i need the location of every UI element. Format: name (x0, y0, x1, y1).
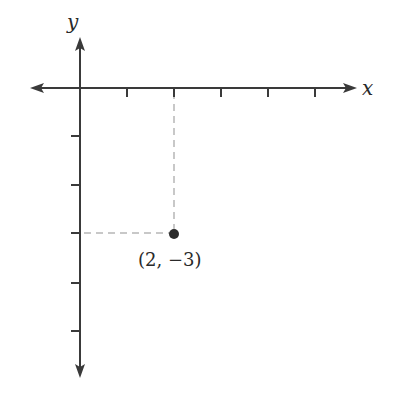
y-ticks (71, 136, 80, 331)
data-point (169, 229, 179, 239)
y-axis-label: y (66, 10, 79, 34)
point-label: (2, −3) (138, 249, 201, 270)
coordinate-plane: y x (2, −3) (0, 0, 401, 409)
x-ticks (127, 88, 315, 97)
x-axis-label: x (362, 76, 373, 100)
